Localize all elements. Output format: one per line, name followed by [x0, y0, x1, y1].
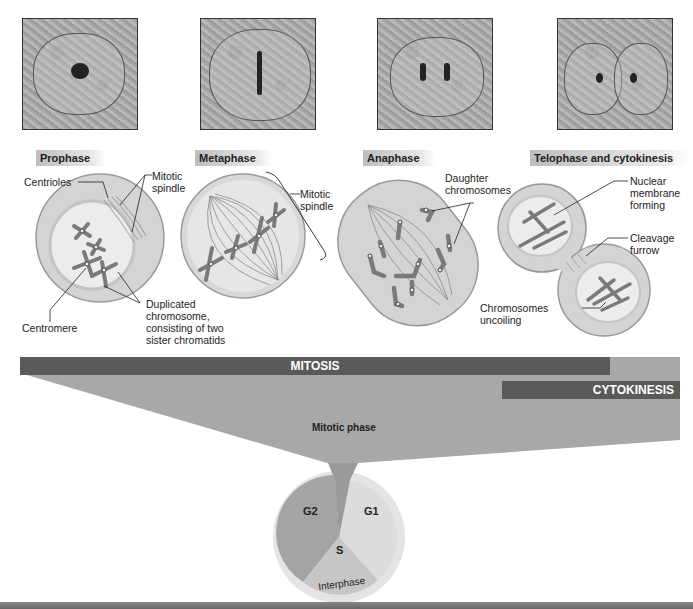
mitosis-bar-tail — [610, 357, 680, 375]
label-centromere: Centromere — [22, 322, 77, 334]
label-nuclear-membrane: Nuclear membrane forming — [630, 175, 680, 211]
mitosis-bar: MITOSIS — [20, 357, 610, 375]
mitosis-label: MITOSIS — [290, 359, 339, 373]
cytokinesis-label: CYTOKINESIS — [593, 383, 674, 397]
prophase-cell — [36, 174, 164, 302]
pie-label-s: S — [336, 544, 343, 556]
label-daughter-chromosomes: Daughter chromosomes — [445, 172, 511, 196]
label-mitotic-spindle-metaphase: Mitotic spindle — [300, 188, 333, 212]
label-duplicated-chromosome: Duplicated chromosome, consisting of two… — [146, 298, 225, 346]
label-mitotic-phase: Mitotic phase — [312, 422, 376, 434]
pie-label-g2: G2 — [303, 505, 318, 517]
label-mitotic-spindle-prophase: Mitotic spindle — [152, 170, 185, 194]
label-centrioles: Centrioles — [24, 176, 71, 188]
label-cleavage-furrow: Cleavage furrow — [630, 232, 674, 256]
mitosis-diagram-graphics — [0, 0, 693, 609]
cytokinesis-bar: CYTOKINESIS — [502, 381, 680, 399]
bottom-rule — [0, 602, 693, 609]
label-chromosomes-uncoiling: Chromosomes uncoiling — [480, 302, 548, 326]
pie-label-g1: G1 — [364, 505, 379, 517]
